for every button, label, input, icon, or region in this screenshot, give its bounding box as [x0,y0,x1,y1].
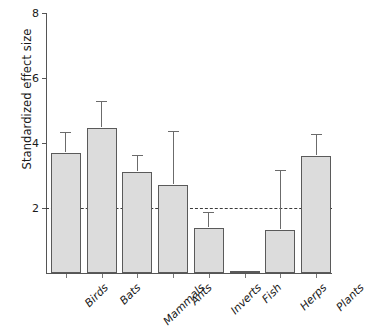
x-tick-mark [173,274,174,278]
error-bar-stem [137,155,138,171]
bar-group[interactable] [230,12,260,273]
error-bar-stem [316,134,317,155]
x-tick-mark [209,274,210,278]
x-tick-mark [66,274,67,278]
x-label-bats: Bats [117,281,143,307]
error-bar-cap [203,212,214,213]
y-tick-mark [42,78,46,79]
bar-group[interactable] [122,12,152,273]
x-label-fish: Fish [259,281,284,306]
bar-group[interactable] [158,12,188,273]
x-axis-line [46,273,332,274]
y-axis-title: Standardized effect size [20,4,34,194]
bar-bats[interactable] [87,128,117,273]
error-bar-cap [311,134,322,135]
error-bar-cap [96,101,107,102]
bar-ants[interactable] [158,185,188,273]
error-bar-stem [208,212,209,227]
error-bar-stem [173,131,174,185]
bar-plants[interactable] [301,156,331,273]
x-label-birds: Birds [82,281,111,310]
error-bar-cap [275,170,286,171]
y-tick-mark [42,143,46,144]
y-tick-label: 6 [32,72,39,85]
bar-herps[interactable] [265,230,295,273]
y-tick-label: 4 [32,137,39,150]
y-tick-label: 2 [32,202,39,215]
x-label-herps: Herps [298,281,330,313]
bar-mammals[interactable] [122,172,152,273]
error-bar-cap [60,132,71,133]
y-tick-mark [42,208,46,209]
error-bar-stem [65,132,66,152]
error-bar-cap [132,155,143,156]
x-tick-mark [137,274,138,278]
bar-group[interactable] [51,12,81,273]
bar-group[interactable] [194,12,224,273]
bar-group[interactable] [301,12,331,273]
plot-area: 2468 BirdsBatsMammalsAntsInvertsFishHerp… [46,13,332,274]
y-axis-line [46,13,47,274]
x-label-inverts: Inverts [228,281,264,317]
bar-birds[interactable] [51,153,81,273]
x-tick-mark [280,274,281,278]
error-bar-stem [101,101,102,127]
bar-group[interactable] [87,12,117,273]
y-tick-label: 8 [32,7,39,20]
x-tick-mark [316,274,317,278]
error-bar-stem [280,170,281,229]
bar-inverts[interactable] [194,228,224,274]
error-bar-cap [168,131,179,132]
y-tick-mark [42,13,46,14]
bar-fish[interactable] [230,271,260,273]
x-tick-mark [102,274,103,278]
bar-group[interactable] [265,12,295,273]
x-tick-mark [245,274,246,278]
x-label-plants: Plants [334,281,367,314]
